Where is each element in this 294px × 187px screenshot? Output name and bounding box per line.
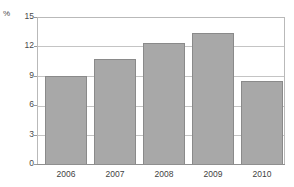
x-tick-label-2010: 2010 (241, 169, 283, 179)
y-tick-label-6: 6 (14, 100, 34, 109)
bar-2010[interactable] (241, 81, 283, 165)
bar-chart: % 15 12 9 6 3 0 2006 2007 (0, 0, 294, 187)
bar-slot-2007 (94, 17, 136, 165)
x-tick-label-2009: 2009 (192, 169, 234, 179)
x-axis-line (37, 164, 285, 165)
y-tick-label-9: 9 (14, 71, 34, 80)
y-axis-unit-label: % (3, 9, 10, 19)
y-tick-label-0: 0 (14, 159, 34, 168)
bar-slot-2010 (241, 17, 283, 165)
bar-2007[interactable] (94, 59, 136, 165)
bar-2009[interactable] (192, 33, 234, 165)
bar-slot-2008 (143, 17, 185, 165)
y-tick-label-15: 15 (14, 12, 34, 21)
bar-slot-2006 (45, 17, 87, 165)
y-tick-label-12: 12 (14, 41, 34, 50)
x-tick-label-2006: 2006 (45, 169, 87, 179)
x-tick-label-2007: 2007 (94, 169, 136, 179)
bar-2006[interactable] (45, 76, 87, 165)
y-tick-label-3: 3 (14, 130, 34, 139)
bar-slot-2009 (192, 17, 234, 165)
x-tick-label-2008: 2008 (143, 169, 185, 179)
bars-layer (37, 17, 285, 165)
bar-2008[interactable] (143, 43, 185, 165)
